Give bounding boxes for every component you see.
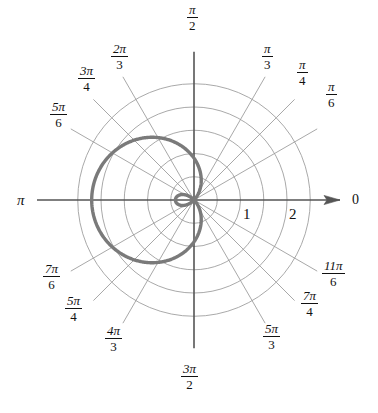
label-leader-240 xyxy=(123,301,136,324)
grid-spoke-225 xyxy=(112,200,194,282)
angle-pi-2: π2 xyxy=(187,3,198,32)
angle-5pi-3: 5π3 xyxy=(263,322,280,351)
grid-spoke-135 xyxy=(112,118,194,200)
angle-7pi-4-numerator: 7π xyxy=(301,289,318,304)
angle-5pi-6-numerator: 5π xyxy=(50,100,67,115)
label-leader-30 xyxy=(295,129,318,142)
angle-5pi-3-denominator: 3 xyxy=(263,337,280,351)
angle-2pi-3: 2π3 xyxy=(111,42,128,71)
angle-7pi-6-numerator: 7π xyxy=(43,262,60,277)
angle-pi-4-denominator: 4 xyxy=(297,73,308,87)
angle-5pi-3-numerator: 5π xyxy=(263,322,280,337)
angle-7pi-4-denominator: 4 xyxy=(301,304,318,318)
angle-7pi-6: 7π6 xyxy=(43,262,60,291)
polar-plot-figure xyxy=(0,0,378,413)
angle-pi-6-numerator: π xyxy=(326,80,337,95)
angle-pi-4-numerator: π xyxy=(297,58,308,73)
angle-5pi-6-denominator: 6 xyxy=(50,115,67,129)
angle-5pi-4: 5π4 xyxy=(65,294,82,323)
angle-pi-2-numerator: π xyxy=(187,3,198,18)
angle-4pi-3-denominator: 3 xyxy=(105,339,122,353)
polar-axes xyxy=(37,52,340,349)
angle-11pi-6: 11π6 xyxy=(322,259,345,288)
angle-7pi-4: 7π4 xyxy=(301,289,318,318)
label-leader-135 xyxy=(93,99,111,117)
grid-spoke-210 xyxy=(93,200,194,258)
angle-5pi-6: 5π6 xyxy=(50,100,67,129)
angle-5pi-4-numerator: 5π xyxy=(65,294,82,309)
angle-pi-2-denominator: 2 xyxy=(187,18,198,32)
polar-plot-svg xyxy=(0,0,378,413)
angle-0: 0 xyxy=(352,192,359,208)
grid-spoke-150 xyxy=(93,142,194,200)
angle-pi-6: π6 xyxy=(326,80,337,109)
grid-spoke-30 xyxy=(194,142,295,200)
label-leader-60 xyxy=(252,77,265,100)
label-leader-45 xyxy=(276,99,294,117)
angle-4pi-3-numerator: 4π xyxy=(105,324,122,339)
label-leader-330 xyxy=(295,258,318,271)
angle-3pi-2-numerator: 3π xyxy=(181,362,198,377)
angle-pi: π xyxy=(17,192,25,209)
label-leader-210 xyxy=(71,258,94,271)
radial-tick-1: 1 xyxy=(243,206,251,223)
angle-3pi-4-denominator: 4 xyxy=(78,79,95,93)
label-leader-300 xyxy=(252,301,265,324)
angle-11pi-6-denominator: 6 xyxy=(322,274,345,288)
angle-pi-3-numerator: π xyxy=(262,42,273,57)
angle-3pi-2-denominator: 2 xyxy=(181,377,198,391)
grid-spoke-315 xyxy=(194,200,276,282)
label-leader-315 xyxy=(276,282,294,300)
angle-11pi-6-numerator: 11π xyxy=(322,259,345,274)
label-leader-150 xyxy=(71,129,94,142)
angle-pi-3-denominator: 3 xyxy=(262,57,273,71)
angle-3pi-4-numerator: 3π xyxy=(78,64,95,79)
label-leader-225 xyxy=(93,282,111,300)
angle-5pi-4-denominator: 4 xyxy=(65,309,82,323)
grid-spoke-60 xyxy=(194,99,252,200)
angle-4pi-3: 4π3 xyxy=(105,324,122,353)
angle-3pi-4: 3π4 xyxy=(78,64,95,93)
angle-2pi-3-numerator: 2π xyxy=(111,42,128,57)
radial-tick-2: 2 xyxy=(289,206,297,223)
angle-3pi-2: 3π2 xyxy=(181,362,198,391)
angle-2pi-3-denominator: 3 xyxy=(111,57,128,71)
grid-spoke-45 xyxy=(194,118,276,200)
angle-pi-6-denominator: 6 xyxy=(326,95,337,109)
label-leader-120 xyxy=(123,77,136,100)
angle-pi-3: π3 xyxy=(262,42,273,71)
angle-7pi-6-denominator: 6 xyxy=(43,277,60,291)
angle-pi-4: π4 xyxy=(297,58,308,87)
